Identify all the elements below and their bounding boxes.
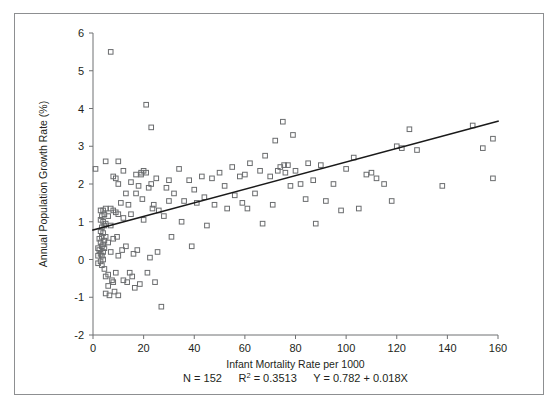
data-point-marker [364,172,369,177]
y-tick-label: 3 [78,140,84,152]
data-point-marker [222,184,227,189]
data-point-marker [202,195,207,200]
data-point-marker [124,191,129,196]
data-point-marker [155,250,160,255]
data-point-marker [440,184,445,189]
data-point-marker [212,202,217,207]
data-point-marker [134,172,139,177]
data-point-marker [407,127,412,132]
data-point-marker [258,168,263,173]
x-tick-label: 140 [438,342,456,354]
x-tick-label: 160 [489,342,507,354]
data-point-marker [298,182,303,187]
data-point-marker [240,201,245,206]
data-point-marker [119,201,124,206]
data-point-marker [324,199,329,204]
data-point-marker [144,102,149,107]
data-point-marker [145,270,150,275]
data-point-marker [167,178,172,183]
data-point-marker [154,176,159,181]
data-point-marker [169,235,174,240]
data-point-marker [108,250,113,255]
x-tick-label: 20 [138,342,150,354]
data-point-marker [283,170,288,175]
data-point-marker [232,193,237,198]
data-point-marker [217,170,222,175]
data-point-marker [291,133,296,138]
data-point-marker [177,167,182,172]
data-point-marker [164,185,169,190]
data-point-marker [369,170,374,175]
y-tick-label: 6 [78,27,84,39]
x-tick-label: 0 [90,342,96,354]
y-tick-label: 1 [78,216,84,228]
data-point-marker [268,174,273,179]
data-point-marker [148,255,153,260]
data-point-marker [192,187,197,192]
data-point-marker [189,244,194,249]
data-point-marker [129,180,134,185]
data-point-marker [313,221,318,226]
data-point-marker [331,182,336,187]
y-axis-title: Annual Population Growth Rate (%) [37,101,49,267]
data-point-marker [121,168,126,173]
y-tick-label: -1 [74,291,84,303]
data-point-marker [108,50,113,55]
data-point-marker [389,199,394,204]
data-point-marker [103,159,108,164]
data-point-marker [356,206,361,211]
data-point-marker [200,174,205,179]
data-point-marker [263,153,268,158]
data-point-marker [162,214,167,219]
data-point-marker [205,223,210,228]
data-point-marker [126,202,131,207]
data-point-marker [225,206,230,211]
data-point-marker [293,168,298,173]
data-point-marker [149,125,154,130]
data-point-marker [245,206,250,211]
data-point-marker [159,304,164,309]
y-tick-label: 5 [78,65,84,77]
data-point-marker [260,221,265,226]
x-tick-label: 100 [337,342,355,354]
data-point-marker [339,208,344,213]
data-point-marker [481,146,486,151]
data-point-marker [248,161,253,166]
data-point-marker [106,284,111,289]
data-point-marker [134,191,139,196]
data-point-marker [230,165,235,170]
scatter-plot: -2-10123456020406080100120140160Annual P… [0,0,558,409]
stats-annotation: N = 152 R2 = 0.3513 Y = 0.782 + 0.018X [183,371,408,384]
data-point-marker [253,191,258,196]
data-point-marker [344,167,349,172]
x-axis-title: Infant Mortality Rate per 1000 [226,358,364,370]
x-tick-label: 80 [289,342,301,354]
data-point-marker [319,163,324,168]
data-point-marker [311,178,316,183]
data-point-marker [116,182,121,187]
data-point-marker [210,176,215,181]
data-point-marker [382,182,387,187]
data-point-marker [281,119,286,124]
data-point-marker [491,136,496,141]
data-point-marker [141,218,146,223]
data-point-marker [93,167,98,172]
y-tick-label: 0 [78,254,84,266]
data-point-marker [116,253,121,258]
x-tick-label: 60 [239,342,251,354]
figure-container: -2-10123456020406080100120140160Annual P… [0,0,558,409]
data-point-marker [179,219,184,224]
data-point-marker [113,270,118,275]
data-point-marker [116,159,121,164]
data-point-marker [491,176,496,181]
data-point-marker [129,212,134,217]
y-tick-label: -2 [74,329,84,341]
data-point-marker [415,148,420,153]
data-point-marker [187,178,192,183]
data-point-marker [270,202,275,207]
data-point-marker [136,184,141,189]
data-point-marker [167,199,172,204]
x-tick-label: 120 [388,342,406,354]
data-point-marker [138,282,143,287]
data-point-marker [172,191,177,196]
